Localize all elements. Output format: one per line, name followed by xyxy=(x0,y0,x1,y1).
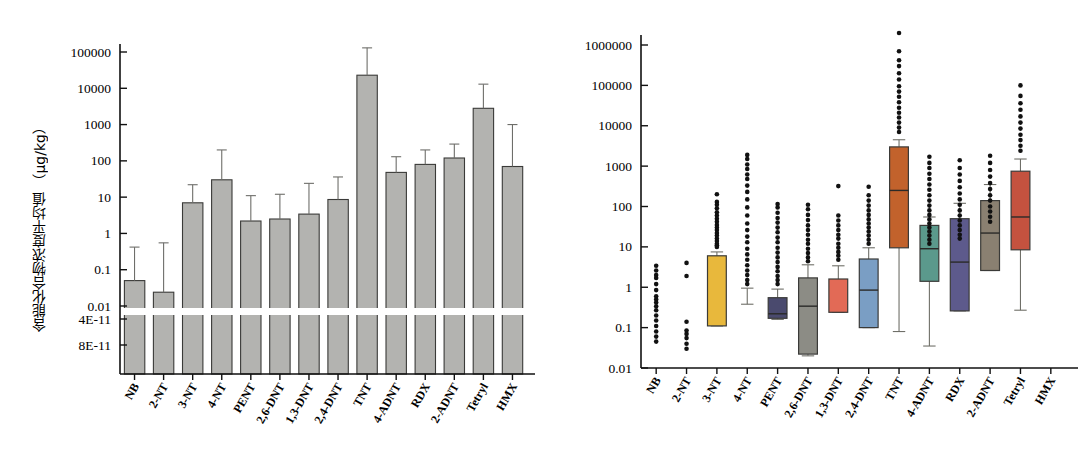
outlier-point xyxy=(988,161,993,166)
bar-TNT xyxy=(357,75,377,374)
boxplot-RDX xyxy=(950,158,969,311)
outlier-point xyxy=(927,213,932,218)
bar-RDX xyxy=(415,164,435,374)
outlier-point xyxy=(806,207,811,212)
outlier-point xyxy=(927,155,932,160)
outlier-point xyxy=(775,205,780,210)
outlier-point xyxy=(654,276,659,281)
outlier-point xyxy=(866,184,871,189)
outlier-point xyxy=(1018,120,1023,125)
x-category-label-HMX: HMX xyxy=(493,380,520,413)
bar-1,3-DNT xyxy=(299,214,319,374)
outlier-point xyxy=(1018,83,1023,88)
outlier-point xyxy=(957,185,962,190)
outlier-point xyxy=(745,263,750,268)
outlier-point xyxy=(836,246,841,251)
outlier-point xyxy=(988,214,993,219)
outlier-point xyxy=(775,220,780,225)
outlier-point xyxy=(866,198,871,203)
outlier-point xyxy=(806,251,811,256)
y-tick-label: 10000 xyxy=(598,118,632,133)
outlier-point xyxy=(1018,138,1023,143)
outlier-point xyxy=(775,235,780,240)
boxplot-1,3-DNT xyxy=(829,184,848,312)
x-category-label-2-ADNT: 2-ADNT xyxy=(964,375,998,420)
outlier-point xyxy=(988,187,993,192)
outlier-point xyxy=(897,49,902,54)
y-tick-label: 0.01 xyxy=(608,361,632,376)
outlier-point xyxy=(745,257,750,262)
outlier-point xyxy=(897,125,902,130)
x-category-label-2,4-DNT: 2,4-DNT xyxy=(842,375,876,420)
outlier-point xyxy=(957,179,962,184)
outlier-point xyxy=(1018,94,1023,99)
outlier-point xyxy=(897,130,902,135)
error-bar-RDX xyxy=(420,150,430,164)
x-category-label-2,4-DNT: 2,4-DNT xyxy=(311,381,345,426)
outlier-point xyxy=(806,228,811,233)
outlier-point xyxy=(775,211,780,216)
outlier-point xyxy=(988,181,993,186)
outlier-point xyxy=(775,278,780,283)
outlier-point xyxy=(775,265,780,270)
outlier-point xyxy=(897,120,902,125)
outlier-point xyxy=(1018,107,1023,112)
error-bar-HMX xyxy=(507,125,517,167)
outlier-point xyxy=(836,223,841,228)
box-TNT xyxy=(890,147,909,248)
outlier-point xyxy=(836,218,841,223)
bar-NB xyxy=(124,281,144,374)
x-category-label-3-NT: 3-NT xyxy=(699,375,724,405)
y-tick-label: 100000 xyxy=(592,78,633,93)
outlier-point xyxy=(866,203,871,208)
outlier-point xyxy=(866,217,871,222)
boxplot-PENT xyxy=(768,202,787,320)
outlier-point xyxy=(988,168,993,173)
x-category-label-2-NT: 2-NT xyxy=(146,381,171,411)
x-category-label-PENT: PENT xyxy=(757,375,785,410)
outlier-point xyxy=(654,324,659,329)
outlier-point xyxy=(927,161,932,166)
box-1,3-DNT xyxy=(829,279,848,312)
figure-root: 含能化合物浓度平均值 （μg/kg） 100000100001000100101… xyxy=(0,0,1092,458)
outlier-point xyxy=(957,228,962,233)
outlier-point xyxy=(775,260,780,265)
outlier-point xyxy=(836,184,841,189)
y-tick-label: 10 xyxy=(619,239,633,254)
y-tick-label: 1000 xyxy=(605,159,632,174)
outlier-point xyxy=(1018,126,1023,131)
outlier-point xyxy=(806,232,811,237)
error-bar-Tetryl xyxy=(478,84,488,108)
outlier-point xyxy=(654,313,659,318)
error-bar-2-NT xyxy=(159,243,169,292)
outlier-point xyxy=(745,273,750,278)
box-2,4-DNT xyxy=(859,259,878,328)
boxplot-TNT xyxy=(890,31,909,332)
outlier-point xyxy=(866,229,871,234)
outlier-point xyxy=(897,100,902,105)
outlier-point xyxy=(988,193,993,198)
outlier-point xyxy=(806,213,811,218)
outlier-point xyxy=(927,198,932,203)
outlier-point xyxy=(927,171,932,176)
box-3-NT xyxy=(708,256,727,326)
outlier-point xyxy=(957,197,962,202)
outlier-point xyxy=(866,233,871,238)
outlier-point xyxy=(1018,149,1023,154)
outlier-point xyxy=(715,206,720,211)
outlier-point xyxy=(806,259,811,264)
x-category-label-Tetryl: Tetryl xyxy=(1001,374,1029,408)
outlier-point xyxy=(897,89,902,94)
axis-break-band xyxy=(104,308,531,315)
outlier-point xyxy=(775,225,780,230)
outlier-point xyxy=(927,229,932,234)
error-bar-4-NT xyxy=(217,150,227,180)
outlier-point xyxy=(927,187,932,192)
outlier-point xyxy=(745,282,750,287)
outlier-point xyxy=(897,84,902,89)
outlier-point xyxy=(988,219,993,224)
bar-chart-panel: 含能化合物浓度平均值 （μg/kg） 100000100001000100101… xyxy=(0,0,546,458)
x-category-label-4-ADNT: 4-ADNT xyxy=(903,375,937,420)
boxplot-3-NT xyxy=(708,192,727,326)
boxplot-2,4-DNT xyxy=(859,184,878,327)
